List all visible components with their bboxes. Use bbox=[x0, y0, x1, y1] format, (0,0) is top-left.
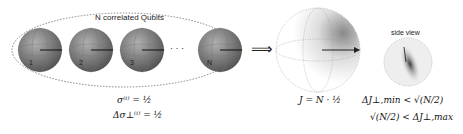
qubit-label-3: 3 bbox=[130, 59, 134, 66]
qubit-collective-spin-diagram: N correlated Qubits 1 2 3 N · · · ⟹ side… bbox=[0, 0, 463, 134]
qubit-sphere-2 bbox=[69, 28, 113, 72]
side-view-sphere bbox=[384, 38, 432, 86]
implies-arrow: ⟹ bbox=[251, 40, 273, 58]
group-label: N correlated Qubits bbox=[95, 13, 164, 22]
ellipsis: · · · bbox=[170, 43, 184, 53]
qubit-sphere-3 bbox=[120, 28, 164, 72]
equation-delta-sigma: Δσ⊥⁽ⁱ⁾ = ½ bbox=[113, 110, 162, 120]
equation-delta-J-max: √(N/2) < ΔJ⊥,max bbox=[370, 112, 453, 122]
qubit-label-1: 1 bbox=[29, 59, 33, 66]
qubit-label-2: 2 bbox=[79, 59, 83, 66]
qubit-sphere-1 bbox=[18, 28, 62, 72]
qubit-sphere-n bbox=[198, 28, 242, 72]
collective-bloch-sphere bbox=[276, 8, 360, 92]
equation-delta-J-min: ΔJ⊥,min < √(N/2) bbox=[362, 95, 443, 105]
equation-sigma: σ⁽ⁱ⁾ = ½ bbox=[117, 95, 151, 105]
equation-J: J = N · ½ bbox=[299, 95, 341, 105]
qubit-label-n: N bbox=[207, 59, 212, 66]
side-view-label: side view bbox=[391, 29, 420, 36]
